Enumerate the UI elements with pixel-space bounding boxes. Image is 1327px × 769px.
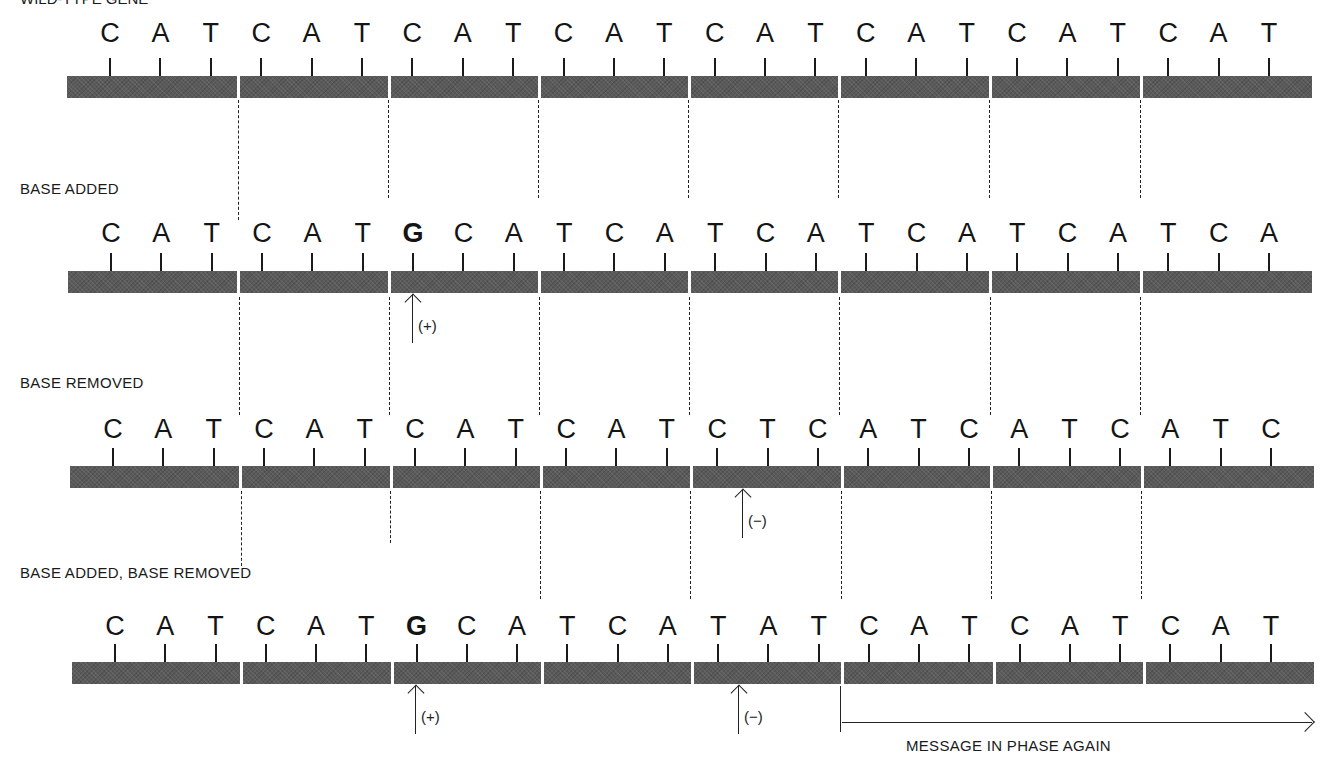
base-tick	[462, 58, 464, 76]
codon-boundary-dash	[841, 491, 842, 599]
base-letter-c: C	[1105, 416, 1135, 443]
base-letter-c: C	[954, 416, 984, 443]
codon-divider	[391, 661, 394, 685]
codon-boundary-dash	[1141, 491, 1142, 599]
base-tick	[714, 58, 716, 76]
base-tick	[663, 58, 665, 76]
base-letter-c: C	[247, 220, 277, 247]
codon-boundary-dash	[991, 491, 992, 599]
base-letter-t: T	[498, 20, 528, 47]
up-arrow-head-icon	[408, 685, 425, 702]
base-letter-c: C	[902, 220, 932, 247]
codon-divider	[993, 661, 996, 685]
base-tick	[918, 644, 920, 662]
base-letter-t: T	[804, 613, 834, 640]
up-arrow-head-icon	[731, 685, 748, 702]
codon-boundary-dash	[239, 297, 240, 415]
base-letter-a: A	[650, 220, 680, 247]
codon-divider	[237, 75, 240, 99]
base-letter-t: T	[649, 20, 679, 47]
base-letter-t: T	[196, 20, 226, 47]
base-tick	[265, 644, 267, 662]
base-tick	[416, 644, 418, 662]
base-tick	[1018, 448, 1020, 466]
base-tick	[767, 448, 769, 466]
base-tick	[615, 448, 617, 466]
base-letter-t: T	[549, 220, 579, 247]
base-tick	[764, 58, 766, 76]
base-letter-a: A	[901, 20, 931, 47]
base-letter-t: T	[197, 220, 227, 247]
deletion-marker-label: (−)	[744, 708, 763, 725]
base-tick	[613, 253, 615, 271]
base-tick	[412, 253, 414, 271]
base-letter-a: A	[301, 613, 331, 640]
base-tick	[968, 644, 970, 662]
base-tick	[1119, 448, 1121, 466]
codon-divider	[690, 465, 693, 489]
base-letter-c: C	[803, 416, 833, 443]
codon-divider	[989, 270, 992, 294]
base-letter-t: T	[703, 613, 733, 640]
row-label-base-added-base-removed: BASE ADDED, BASE REMOVED	[20, 564, 251, 581]
base-letter-c: C	[1005, 613, 1035, 640]
base-letter-t: T	[348, 220, 378, 247]
base-letter-t: T	[1055, 416, 1085, 443]
base-letter-c: C	[95, 20, 125, 47]
in-phase-arrow-line	[842, 722, 1312, 723]
base-tick	[814, 58, 816, 76]
base-tick	[1268, 253, 1270, 271]
codon-divider	[388, 75, 391, 99]
base-letter-t: T	[753, 416, 783, 443]
codon-boundary-dash	[838, 100, 839, 198]
base-tick	[1169, 448, 1171, 466]
base-tick	[414, 448, 416, 466]
base-letter-t: T	[552, 613, 582, 640]
base-letter-t: T	[1105, 613, 1135, 640]
codon-divider	[540, 465, 543, 489]
codon-divider	[838, 270, 841, 294]
base-letter-a: A	[297, 220, 327, 247]
base-tick	[1067, 253, 1069, 271]
codon-boundary-dash	[538, 100, 539, 198]
base-tick	[1270, 448, 1272, 466]
base-letter-a: A	[299, 416, 329, 443]
base-letter-a: A	[753, 613, 783, 640]
row-label-base-added: BASE ADDED	[20, 180, 119, 197]
base-tick	[966, 253, 968, 271]
base-letter-c: C	[1204, 220, 1234, 247]
base-tick	[867, 448, 869, 466]
base-tick	[464, 448, 466, 466]
base-tick	[311, 58, 313, 76]
up-arrow-head-icon	[735, 489, 752, 506]
base-letter-c: C	[1002, 20, 1032, 47]
base-tick	[311, 253, 313, 271]
base-letter-c: C	[246, 20, 276, 47]
base-tick	[868, 644, 870, 662]
base-tick	[261, 253, 263, 271]
base-letter-c: C	[448, 220, 478, 247]
base-letter-t: T	[199, 416, 229, 443]
base-letter-a: A	[653, 613, 683, 640]
codon-boundary-dash	[238, 100, 239, 220]
base-letter-a: A	[599, 20, 629, 47]
codon-divider	[1141, 465, 1144, 489]
base-letter-c: C	[1153, 20, 1183, 47]
base-tick	[1069, 448, 1071, 466]
base-tick	[716, 448, 718, 466]
codon-boundary-dash	[388, 100, 389, 198]
codon-boundary-dash	[1140, 297, 1141, 415]
base-letter-c: C	[1053, 220, 1083, 247]
base-tick	[1270, 644, 1272, 662]
base-letter-a: A	[1204, 20, 1234, 47]
base-tick	[1016, 253, 1018, 271]
base-tick	[211, 253, 213, 271]
base-tick	[664, 253, 666, 271]
base-tick	[160, 253, 162, 271]
base-tick	[667, 644, 669, 662]
base-tick	[260, 58, 262, 76]
base-letter-c: C	[1155, 613, 1185, 640]
base-letter-t: T	[347, 20, 377, 47]
base-letter-c: C	[702, 416, 732, 443]
codon-divider	[538, 75, 541, 99]
